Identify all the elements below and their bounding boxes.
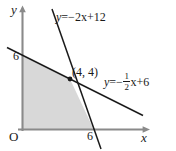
equation-shallow-tail: x+6 — [130, 76, 149, 88]
y-axis-label: y — [11, 3, 17, 16]
origin-label: O — [9, 130, 18, 143]
equation-shallow-operator: =− — [109, 76, 123, 88]
fraction-numerator: 1 — [123, 72, 130, 82]
graph-figure: y x O 6 6 (4, 4) y = −2x+12 y =− 1 2 x+6 — [0, 0, 176, 151]
x-axis-label: x — [141, 131, 147, 144]
fraction-denominator: 2 — [123, 81, 130, 92]
equation-shallow-fraction: 1 2 — [123, 72, 130, 92]
x-axis-tick-label-6: 6 — [87, 130, 93, 142]
equation-steep-operator: = — [61, 11, 68, 23]
equation-steep-rhs: −2x+12 — [68, 11, 106, 23]
equation-label-steep-line: y = −2x+12 — [56, 11, 106, 23]
equation-label-shallow-line: y =− 1 2 x+6 — [104, 72, 149, 92]
y-axis-arrow-icon — [19, 6, 26, 13]
y-axis-tick-label-6: 6 — [13, 50, 19, 62]
intersection-point-label: (4, 4) — [72, 66, 98, 78]
